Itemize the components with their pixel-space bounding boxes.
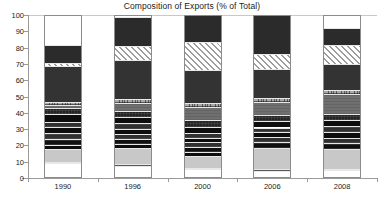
x-tick-mark [237,178,238,182]
bar-segment [253,115,291,121]
y-tick-label: 50 [2,92,24,101]
bar-segment [323,114,361,120]
bar-segment [253,102,291,115]
bar-segment [114,103,152,111]
bar-1990 [44,15,82,178]
bar-segment [323,132,361,138]
bar-segment [184,168,222,169]
bar-segment [44,139,82,145]
bar-segment [114,164,152,165]
bar-segment [323,143,361,149]
x-tick-mark [28,178,29,182]
bar-segment [44,45,82,63]
bar-segment [44,63,82,65]
y-tick-mark [24,48,28,49]
bar-2008 [323,15,361,178]
bar-segment [323,138,361,144]
chart-container: Composition of Exports (% of Total) 0102… [0,0,384,197]
bar-segment [44,114,82,121]
bar-segment [114,60,152,99]
bar-segment [184,169,222,178]
y-tick-mark [24,145,28,146]
y-tick-label: 60 [2,76,24,85]
bar-2006 [253,15,291,178]
x-tick-mark [307,178,308,182]
bar-segment [44,145,82,149]
x-tick-mark [168,178,169,182]
bar-1996 [114,15,152,178]
bar-segment [44,133,82,139]
bar-segment [44,162,82,164]
bar-segment [253,128,291,133]
bar-segment [253,142,291,148]
bar-segment [184,142,222,147]
bar-segment [253,54,291,69]
bar-segment [184,133,222,138]
x-tick-label-2006: 2006 [264,182,281,191]
bar-segment [253,137,291,142]
y-tick-label: 20 [2,141,24,150]
bar-segment [253,148,291,170]
y-tick-label: 40 [2,108,24,117]
y-axis-line [28,15,29,179]
bar-segment [184,147,222,152]
bar-segment [114,148,152,165]
y-tick-mark [24,129,28,130]
bar-segment [184,127,222,133]
x-axis-line [22,178,378,179]
bar-segment [323,169,361,170]
bar-segment [114,123,152,129]
y-tick-label: 70 [2,59,24,68]
bar-segment [184,107,222,121]
bar-segment [184,15,222,43]
bar-segment [184,42,222,70]
bar-segment [253,69,291,98]
bar-segment [253,169,291,170]
bar-segment [114,144,152,148]
y-tick-mark [24,64,28,65]
y-tick-label: 0 [2,174,24,183]
bar-segment [323,149,361,169]
bar-segment [114,166,152,178]
y-tick-mark [24,31,28,32]
bar-segment [184,103,222,106]
bar-segment [44,163,82,178]
bar-segment [114,134,152,139]
bar-segment [184,152,222,155]
chart-title: Composition of Exports (% of Total) [0,1,384,11]
y-tick-label: 90 [2,27,24,36]
y-tick-mark [24,97,28,98]
bar-segment [253,15,291,54]
bar-segment [44,127,82,133]
bar-segment [253,171,291,178]
bar-segment [253,121,291,128]
bar-segment [323,126,361,132]
bar-segment [44,105,82,107]
bar-segment [323,170,361,178]
y-tick-label: 100 [2,11,24,20]
bar-segment [323,45,361,65]
y-tick-label: 80 [2,43,24,52]
bar-segment [44,102,82,105]
bar-segment [114,117,152,124]
bar-segment [114,129,152,134]
bar-segment [184,138,222,143]
y-tick-label: 10 [2,157,24,166]
x-tick-mark [98,178,99,182]
x-tick-label-2000: 2000 [194,182,211,191]
bar-segment [44,66,82,103]
bar-segment [184,120,222,127]
bar-segment [184,70,222,103]
x-tick-label-1996: 1996 [124,182,141,191]
bar-segment [114,17,152,46]
y-tick-mark [24,113,28,114]
y-tick-mark [24,80,28,81]
bar-segment [44,122,82,128]
bar-segment [44,149,82,162]
bar-segment [114,99,152,103]
bar-segment [114,139,152,144]
bar-segment [323,90,361,94]
y-tick-label: 30 [2,125,24,134]
bar-segment [184,156,222,168]
y-tick-mark [24,162,28,163]
